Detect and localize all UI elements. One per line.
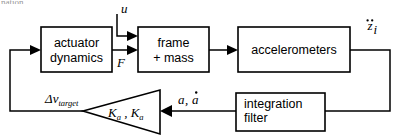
signal-label-delta-v-target: Δvtarget (44, 91, 79, 108)
signal-label-alpha: a (178, 92, 185, 107)
gain-triangle-label: Ka , Ka (107, 105, 144, 122)
arrowhead-F (127, 45, 138, 55)
wire-frame-to-accelerometers (209, 45, 238, 55)
wire-u-input (117, 14, 138, 41)
block-accelerometers: accelerometers (238, 27, 350, 72)
signal-label-z-subscript: i (374, 22, 378, 37)
arrowhead-u (127, 31, 138, 41)
delta-v-subscript: target (58, 98, 79, 108)
alpha-dot-accent (195, 91, 197, 93)
gain-separator: , (121, 105, 131, 120)
arrowhead-actuator-in (30, 45, 41, 55)
block-actuator-dynamics-label-line2: dynamics (50, 51, 103, 65)
signal-label-alpha-group: a , a (178, 91, 199, 107)
delta-symbol: Δ (44, 91, 53, 106)
signal-label-alpha-dot: a (192, 92, 199, 107)
block-actuator-dynamics: actuator dynamics (41, 27, 112, 72)
block-diagram-canvas: actuator dynamics frame + mass accelerom… (0, 0, 401, 140)
gain-k2-subscript: a (139, 112, 143, 122)
signal-label-u: u (121, 1, 128, 16)
z-ddot-dot-left (366, 19, 368, 21)
signal-label-alpha-comma: , (185, 92, 188, 107)
block-integration-filter-label-line1: integration (244, 97, 302, 111)
block-gain-triangle: Ka , Ka (83, 90, 160, 134)
wire-actuator-to-frame (112, 45, 138, 55)
block-frame-mass-label-line2: + mass (153, 51, 194, 65)
block-integration-filter-label-line2: filter (244, 111, 268, 125)
block-accelerometers-label: accelerometers (251, 43, 336, 57)
arrowhead-gain-in (160, 105, 172, 117)
block-actuator-dynamics-label-line1: actuator (54, 36, 99, 50)
block-frame-mass-label-line1: frame (158, 36, 190, 50)
signal-label-z-ddot-i: z i (366, 18, 377, 37)
block-integration-filter: integration filter (236, 93, 325, 131)
block-frame-mass: frame + mass (138, 27, 209, 72)
block-diagram-container: nation (0, 0, 401, 140)
signal-label-F: F (116, 55, 126, 70)
z-ddot-dot-right (371, 19, 373, 21)
arrowhead-accelerometers-in (227, 45, 238, 55)
